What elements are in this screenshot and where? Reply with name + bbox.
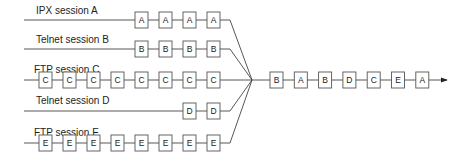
svg-text:C: C	[210, 75, 216, 85]
output-packet-box: B	[319, 72, 332, 88]
svg-text:E: E	[139, 138, 145, 148]
svg-text:C: C	[371, 75, 377, 85]
packet-box: E	[135, 135, 148, 151]
packet-box: E	[87, 135, 100, 151]
packet-box: C	[159, 72, 172, 88]
multiplexing-diagram: IPX session AAAAATelnet session BBBBBFTP…	[0, 0, 458, 160]
packet-box: C	[87, 72, 100, 88]
svg-text:E: E	[91, 138, 97, 148]
packet-box: B	[159, 41, 172, 57]
svg-text:C: C	[114, 75, 120, 85]
svg-text:B: B	[163, 44, 169, 54]
svg-text:A: A	[211, 15, 217, 25]
merge-line	[220, 49, 252, 80]
session-label: Telnet session B	[36, 34, 109, 45]
session-label: IPX session A	[36, 5, 98, 16]
packet-box: C	[183, 72, 196, 88]
packet-box: E	[63, 135, 76, 151]
packet-box: C	[63, 72, 76, 88]
svg-text:B: B	[274, 75, 280, 85]
merge-line	[220, 80, 252, 111]
svg-text:C: C	[138, 75, 144, 85]
output-packet-box: D	[343, 72, 356, 88]
output-packet-box: A	[294, 72, 307, 88]
packet-box: E	[207, 135, 220, 151]
packet-box: A	[159, 12, 172, 28]
packet-box: D	[207, 103, 220, 119]
packet-box: C	[135, 72, 148, 88]
packet-box: E	[39, 135, 52, 151]
svg-text:E: E	[67, 138, 73, 148]
svg-text:B: B	[211, 44, 217, 54]
session-row-c: FTP session CCCCCCCCC	[24, 64, 252, 88]
svg-text:B: B	[322, 75, 328, 85]
svg-text:E: E	[187, 138, 193, 148]
output-packet-box: C	[367, 72, 380, 88]
packet-box: A	[183, 12, 196, 28]
svg-text:A: A	[187, 15, 193, 25]
svg-text:C: C	[90, 75, 96, 85]
merge-line	[220, 20, 252, 80]
svg-text:C: C	[66, 75, 72, 85]
output-packet-box: A	[416, 72, 429, 88]
svg-text:E: E	[43, 138, 49, 148]
svg-text:B: B	[139, 44, 145, 54]
svg-text:D: D	[186, 106, 192, 116]
svg-text:A: A	[163, 15, 169, 25]
svg-text:D: D	[210, 106, 216, 116]
output-packet-box: B	[270, 72, 283, 88]
packet-box: E	[159, 135, 172, 151]
output-packet-box: E	[392, 72, 405, 88]
packet-box: D	[183, 103, 196, 119]
output-stream: BABDCEA	[252, 72, 447, 88]
packet-box: A	[207, 12, 220, 28]
packet-box: C	[207, 72, 220, 88]
svg-text:B: B	[187, 44, 193, 54]
merge-line	[220, 80, 252, 143]
packet-box: B	[207, 41, 220, 57]
svg-text:C: C	[42, 75, 48, 85]
svg-text:E: E	[115, 138, 121, 148]
svg-text:C: C	[186, 75, 192, 85]
session-label: Telnet session D	[36, 95, 109, 106]
svg-text:A: A	[139, 15, 145, 25]
svg-text:A: A	[419, 75, 425, 85]
svg-text:A: A	[298, 75, 304, 85]
svg-text:E: E	[395, 75, 401, 85]
packet-box: C	[39, 72, 52, 88]
svg-text:C: C	[162, 75, 168, 85]
svg-text:D: D	[346, 75, 352, 85]
svg-text:E: E	[211, 138, 217, 148]
packet-box: A	[135, 12, 148, 28]
packet-box: B	[135, 41, 148, 57]
packet-box: B	[183, 41, 196, 57]
packet-box: E	[183, 135, 196, 151]
packet-box: E	[111, 135, 124, 151]
packet-box: C	[111, 72, 124, 88]
svg-text:E: E	[163, 138, 169, 148]
